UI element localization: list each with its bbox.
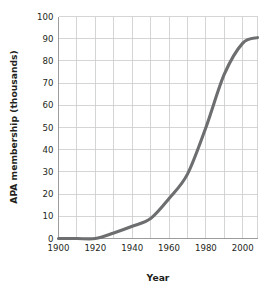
y-tick-label: 100 bbox=[37, 12, 53, 22]
x-tick-label: 1980 bbox=[195, 243, 217, 253]
y-tick-label: 60 bbox=[43, 100, 54, 110]
chart-container: 0102030405060708090100 19001920194019601… bbox=[0, 0, 272, 285]
line-chart: 0102030405060708090100 19001920194019601… bbox=[0, 0, 272, 285]
x-tick-label: 1940 bbox=[121, 243, 143, 253]
y-tick-label: 70 bbox=[43, 78, 54, 88]
y-tick-label: 40 bbox=[43, 145, 54, 155]
x-tick-label: 1960 bbox=[158, 243, 180, 253]
y-tick-label: 20 bbox=[43, 189, 54, 199]
y-axis-title: APA membership (thousands) bbox=[8, 50, 19, 203]
y-tick-label: 30 bbox=[43, 167, 54, 177]
x-tick-label: 2000 bbox=[232, 243, 254, 253]
y-tick-label: 90 bbox=[43, 34, 54, 44]
x-tick-label: 1920 bbox=[84, 243, 106, 253]
x-tick-label: 1900 bbox=[48, 243, 70, 253]
y-tick-label: 80 bbox=[43, 56, 54, 66]
x-axis-title: Year bbox=[146, 272, 170, 283]
y-tick-label: 50 bbox=[43, 123, 54, 133]
y-tick-label: 10 bbox=[43, 211, 54, 221]
